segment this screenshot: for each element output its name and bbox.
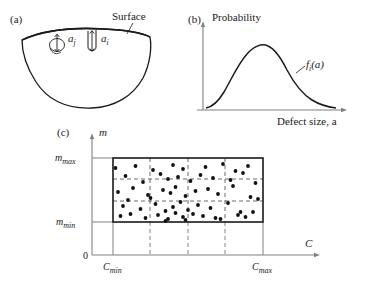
panel-c-origin-label: 0 — [83, 250, 88, 261]
component-body-outline — [22, 28, 151, 108]
scatter-point — [161, 188, 165, 192]
scatter-point — [256, 197, 260, 201]
scatter-point — [221, 162, 225, 166]
scatter-grid-extensions — [150, 222, 225, 255]
surface-defect-label: ai — [101, 32, 109, 47]
panel-a-label: (a) — [10, 13, 23, 26]
scatter-point — [204, 165, 208, 169]
scatter-point — [246, 164, 250, 168]
scatter-point — [144, 216, 148, 220]
scatter-point — [116, 190, 120, 194]
scatter-point — [239, 210, 243, 214]
scatter-point — [189, 179, 193, 183]
scatter-point — [196, 203, 200, 207]
scatter-point — [169, 191, 173, 195]
figure-svg: (a) Surface aj ai (b) — [0, 0, 373, 282]
panel-c-x-axis-label: C — [305, 237, 313, 249]
scatter-point — [181, 215, 185, 219]
scatter-point — [184, 194, 188, 198]
scatter-point — [139, 207, 143, 211]
scatter-point — [229, 178, 233, 182]
scatter-point — [181, 167, 185, 171]
scatter-point — [241, 171, 245, 175]
scatter-point — [251, 210, 255, 214]
panel-b-label: (b) — [188, 13, 201, 26]
scatter-point — [186, 208, 190, 212]
curve-label: fi(a) — [306, 58, 324, 73]
scatter-point — [191, 212, 195, 216]
panel-c-y-axis-label: m — [99, 126, 107, 138]
panel-b-x-axis-arrow — [341, 108, 347, 112]
scatter-point — [164, 209, 168, 213]
scatter-point — [166, 177, 170, 181]
scatter-point — [154, 202, 158, 206]
scatter-point — [119, 214, 123, 218]
curve-label-leader-line — [296, 66, 305, 73]
scatter-point — [114, 166, 118, 170]
m-min-tick-label: mmin — [56, 216, 75, 230]
panel-c-label: (c) — [57, 126, 70, 139]
panel-c-x-axis-arrow — [314, 253, 320, 257]
scatter-point — [179, 200, 183, 204]
embedded-defect-label: aj — [68, 32, 76, 47]
scatter-point — [151, 168, 155, 172]
scatter-point — [234, 169, 238, 173]
scatter-point — [141, 180, 145, 184]
probability-density-curve — [206, 45, 336, 108]
scatter-point — [216, 192, 220, 196]
panel-b-y-axis-label: Probability — [212, 11, 261, 23]
scatter-point — [134, 164, 138, 168]
scatter-point — [226, 201, 230, 205]
scatter-point — [254, 181, 258, 185]
scatter-point — [174, 211, 178, 215]
scatter-point — [176, 175, 180, 179]
figure-container: (a) Surface aj ai (b) — [0, 0, 373, 282]
scatter-point — [156, 213, 160, 217]
scatter-point — [159, 172, 163, 176]
scatter-point — [121, 204, 125, 208]
scatter-point — [244, 215, 248, 219]
panel-b-x-axis-label: Defect size, a — [277, 115, 337, 127]
scatter-point — [126, 198, 130, 202]
scatter-point — [211, 176, 215, 180]
panel-a: (a) Surface aj ai — [10, 10, 151, 108]
scatter-point — [201, 214, 205, 218]
scatter-point — [171, 205, 175, 209]
scatter-point — [214, 216, 218, 220]
scatter-point — [206, 187, 210, 191]
embedded-defect: aj — [50, 32, 76, 54]
panel-b-y-axis-arrow — [201, 22, 205, 28]
scatter-point — [249, 195, 253, 199]
scatter-point — [236, 213, 240, 217]
scatter-point — [231, 184, 235, 188]
panel-b: (b) Probability Defect size, a fi(a) — [188, 11, 347, 127]
panel-c-y-axis-arrow — [90, 134, 94, 140]
scatter-point — [174, 185, 178, 189]
scatter-point — [194, 189, 198, 193]
scatter-point — [149, 196, 153, 200]
scatter-point — [219, 217, 223, 221]
scatter-point — [129, 212, 133, 216]
m-max-tick-label: mmax — [55, 152, 76, 166]
scatter-point — [131, 186, 135, 190]
scatter-point — [209, 206, 213, 210]
component-surface-line — [22, 28, 150, 40]
surface-defect: ai — [88, 30, 109, 51]
scatter-point — [146, 193, 150, 197]
surface-label: Surface — [112, 10, 146, 22]
scatter-point — [171, 163, 175, 167]
panel-c: (c) m C 0 mmax mmin Cmin Cmax — [55, 126, 320, 275]
scatter-point — [184, 218, 188, 222]
c-max-tick-label: Cmax — [252, 261, 272, 275]
scatter-point — [199, 173, 203, 177]
scatter-points — [114, 162, 260, 223]
c-min-tick-label: Cmin — [103, 261, 122, 275]
scatter-point — [124, 174, 128, 178]
scatter-point — [164, 219, 168, 223]
